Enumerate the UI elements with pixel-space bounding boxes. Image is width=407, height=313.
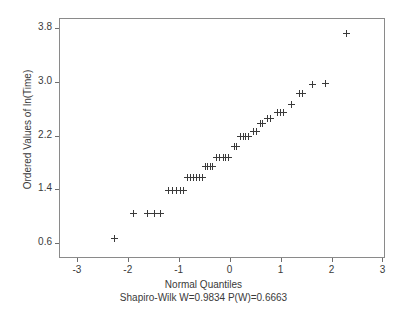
data-point xyxy=(274,109,281,116)
data-point xyxy=(204,163,211,170)
data-point xyxy=(193,174,200,181)
data-point xyxy=(173,187,180,194)
data-point xyxy=(309,81,316,88)
data-point xyxy=(220,154,227,161)
data-point xyxy=(250,128,257,135)
data-point xyxy=(245,133,252,140)
data-point xyxy=(225,154,232,161)
data-point-layer xyxy=(0,0,407,313)
data-point xyxy=(233,143,240,150)
data-point xyxy=(222,154,229,161)
qq-plot-figure: -3-2-10123 0.61.42.23.03.8 Normal Quanti… xyxy=(0,0,407,313)
data-point xyxy=(207,163,214,170)
data-point xyxy=(177,187,184,194)
data-point xyxy=(190,174,197,181)
data-point xyxy=(240,133,247,140)
data-point xyxy=(199,174,206,181)
data-point xyxy=(213,154,220,161)
data-point xyxy=(253,128,260,135)
data-point xyxy=(242,133,249,140)
data-point xyxy=(180,187,187,194)
data-point xyxy=(209,163,216,170)
data-point xyxy=(296,90,303,97)
data-point xyxy=(267,115,274,122)
data-point xyxy=(202,163,209,170)
data-point xyxy=(184,174,191,181)
data-point xyxy=(257,120,264,127)
data-point xyxy=(151,210,158,217)
data-point xyxy=(264,115,271,122)
data-point xyxy=(157,210,164,217)
data-point xyxy=(216,154,223,161)
data-point xyxy=(231,143,238,150)
data-point xyxy=(130,210,137,217)
data-point xyxy=(277,109,284,116)
data-point xyxy=(144,210,151,217)
data-point xyxy=(165,187,172,194)
data-point xyxy=(288,101,295,108)
data-point xyxy=(169,187,176,194)
data-point xyxy=(196,174,203,181)
data-point xyxy=(111,235,118,242)
data-point xyxy=(343,30,350,37)
data-point xyxy=(322,80,329,87)
data-point xyxy=(237,133,244,140)
data-point xyxy=(187,174,194,181)
data-point xyxy=(299,90,306,97)
data-point xyxy=(259,120,266,127)
data-point xyxy=(280,109,287,116)
